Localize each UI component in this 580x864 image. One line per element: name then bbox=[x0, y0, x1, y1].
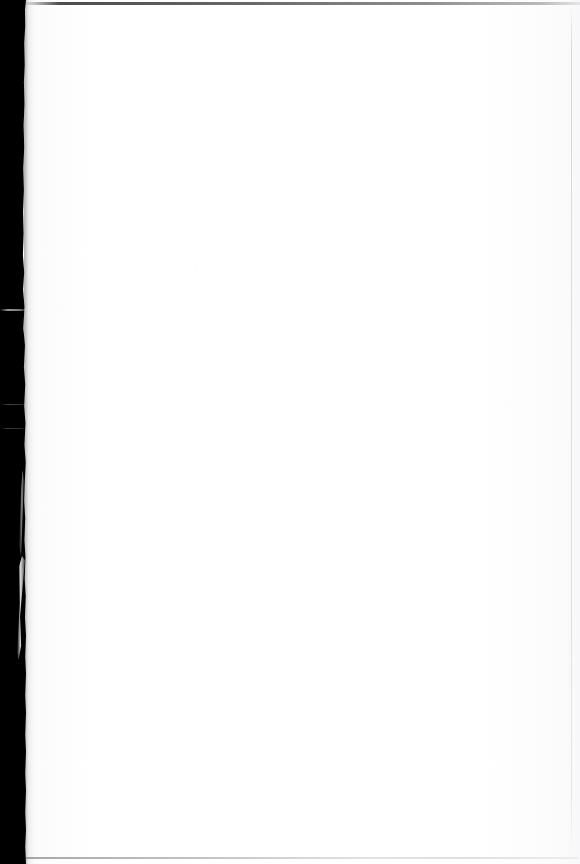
page-bottom-rule bbox=[26, 857, 578, 859]
gutter-light-streak-secondary bbox=[0, 404, 27, 405]
page-body-text bbox=[40, 20, 562, 844]
scan-speckle bbox=[572, 272, 574, 274]
scanner-gutter bbox=[0, 0, 26, 864]
page-top-rule bbox=[26, 2, 580, 5]
scan-speckle bbox=[196, 268, 198, 270]
gutter-shadow bbox=[24, 0, 34, 864]
scan-speckle bbox=[428, 523, 430, 525]
gutter-light-streak-tertiary bbox=[0, 428, 27, 429]
scan-speckle bbox=[236, 287, 238, 289]
scan-speckle bbox=[505, 405, 507, 407]
scan-speckle bbox=[545, 704, 547, 706]
scan-speckle bbox=[483, 372, 485, 374]
scan-speckle bbox=[427, 569, 429, 571]
scan-speckle bbox=[325, 554, 327, 556]
page-right-edge-line bbox=[571, 6, 572, 856]
scan-speckle bbox=[61, 308, 63, 310]
scan-speckle bbox=[571, 121, 573, 123]
scan-speckle bbox=[460, 475, 462, 477]
scanned-page bbox=[0, 0, 580, 864]
gutter-light-streak bbox=[0, 309, 27, 311]
